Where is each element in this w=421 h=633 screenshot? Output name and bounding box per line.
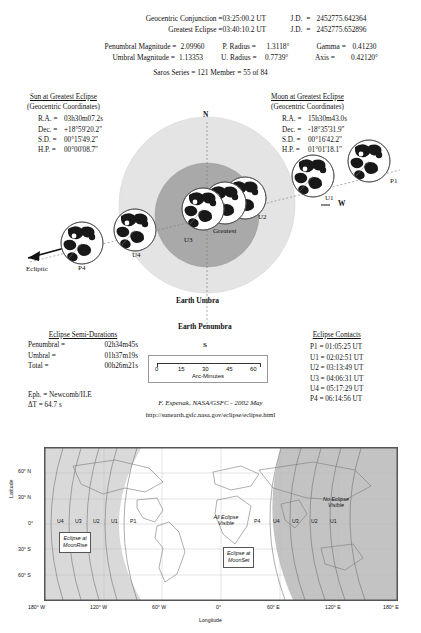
contact-label-u3: U3 [184,236,193,244]
moonset-line1: Eclipse at [227,550,250,557]
axis-label: Axis = [315,53,351,64]
lon-tick-120e: 120° E [325,604,341,610]
moonrise-box: Eclipse at MoonRise [59,532,91,553]
magnitude-row: Penumbral Magnitude = 2.09960 P. Radius … [0,42,421,53]
contour-label-right-u3: U3 [292,518,299,524]
lon-tick-120w: 120° W [90,604,107,610]
semi-total-key: Total = [28,361,82,371]
contact-key-p1: P1 = [310,343,323,351]
moonrise-line2: MoonRise [63,542,87,549]
contour-label-u3: U3 [75,518,82,524]
region-label-no-visible: No Eclipse Visible [307,496,365,508]
lat-tick-60n: 60° N [18,468,31,474]
moonrise-line1: Eclipse at [63,535,87,542]
moon-position-p1 [348,140,390,182]
contact-value-p1: 01:05:25 UT [325,343,362,351]
contour-label-u4: U4 [57,518,64,524]
lat-tick-30s: 30° S [18,546,31,552]
direction-north-label: N [203,110,208,119]
visibility-world-map: All Eclipse Visible No Eclipse Visible E… [44,447,398,601]
greatest-eclipse-label: Greatest Eclipse = [55,25,223,36]
greatest-eclipse-value: 03:40:10.2 UT [223,25,291,36]
scale-tickline [157,363,261,367]
eclipse-semi-durations-panel: Eclipse Semi-Durations Penumbral = 02h34… [28,330,138,372]
contacts-title: Eclipse Contacts [310,330,363,340]
gamma-label: Gamma = [316,42,352,53]
geocentric-conjunction-label: Geocentric Conjunction = [55,14,223,25]
moonset-box: Eclipse at MoonSet [223,547,254,568]
p-radius-value: 1.3118° [266,42,316,53]
scale-tick-0: 0 [155,366,158,372]
direction-south-label: S [203,341,207,349]
scale-tick-15: 15 [178,366,185,372]
moon-position-p4 [61,222,103,264]
moonset-line2: MoonSet [227,557,250,564]
contact-label-p1: P1 [390,177,397,185]
penumbral-magnitude-label: Penumbral Magnitude = [44,42,176,53]
moon-position-u4 [114,209,156,251]
scale-tick-30: 30 [202,366,209,372]
jd-value-1: 2452775.652896 [317,25,367,36]
contact-value-u3: 04:06:31 UT [326,375,363,383]
ecliptic-label: Ecliptic [26,265,48,273]
jd-label-1: J.D. = [291,25,317,36]
p-radius-label: P. Radius = [222,42,266,53]
semi-penumbral-value: 02h34m45s [82,340,138,350]
jd-value-0: 2452775.642364 [317,14,367,25]
eclipse-page: Geocentric Conjunction = 03:25:00.2 UT J… [0,0,421,633]
contact-key-u1: U1 = [310,354,325,362]
header-row: Greatest Eclipse = 03:40:10.2 UT J.D. = … [0,25,421,36]
moon-position-u3 [182,188,224,230]
contour-label-right-u2: U2 [311,518,318,524]
lon-tick-0: 0° [216,604,221,610]
contact-label-greatest: Greatest [213,227,236,235]
contact-row-u2: U2 = 03:13:49 UT [310,363,363,373]
contact-row-p1: P1 = 01:05:25 UT [310,342,363,352]
credit-url[interactable]: http://sunearth.gsfc.nasa.gov/eclipse/ec… [0,409,421,420]
semi-durations-title: Eclipse Semi-Durations [28,330,138,340]
lon-tick-180e: 180° E [383,604,399,610]
axis-value: 0.42120° [351,53,378,64]
credit-author: F. Espenak, NASA/GSFC - 2002 May [0,398,421,409]
lat-tick-30n: 30° N [18,494,31,500]
eclipse-contacts-panel: Eclipse Contacts P1 = 01:05:25 UT U1 = 0… [310,330,363,405]
geocentric-conjunction-value: 03:25:00.2 UT [223,14,291,25]
umbral-magnitude-value: 1.13353 [175,53,221,64]
scale-tick-60: 60 [250,366,257,372]
lon-tick-60e: 60° E [267,604,280,610]
semi-penumbral-row: Penumbral = 02h34m45s [28,340,138,350]
earth-penumbra-label: Earth Penumbra [178,322,232,331]
contact-key-u3: U3 = [310,375,325,383]
latitude-axis-label: Latitude [8,480,14,498]
jd-label-0: J.D. = [291,14,317,25]
scale-unit-label: Arc-Minutes [149,373,267,379]
semi-total-value: 00h26m21s [82,361,138,371]
scale-tick-45: 45 [226,366,233,372]
longitude-axis-label: Longitude [0,617,421,623]
contact-row-u1: U1 = 02:02:51 UT [310,353,363,363]
penumbral-magnitude-value: 2.09960 [176,42,222,53]
umbral-magnitude-label: Umbral Magnitude = [43,53,175,64]
moon-position-u1 [292,155,334,197]
contact-value-u2: 03:13:49 UT [326,364,363,372]
contour-label-right-u1: U1 [330,518,337,524]
scale-bar: 0 15 30 45 60 Arc-Minutes [148,355,268,383]
header-block: Geocentric Conjunction = 03:25:00.2 UT J… [0,14,421,79]
eclipse-shadow-diagram: N W Ecliptic Earth Umbra P1 U1 U2 Greate… [0,110,421,325]
contact-key-u4: U4 = [310,385,325,393]
semi-umbral-value: 01h37m19s [82,351,138,361]
lat-tick-0: 0° [28,520,33,526]
u-radius-label: U. Radius = [221,53,265,64]
saros-series: Saros Series = 121 Member = 55 of 84 [0,68,421,79]
semi-umbral-key: Umbral = [28,351,82,361]
contact-value-u4: 05:17:29 UT [326,385,363,393]
contour-label-p4: P4 [254,518,260,524]
contact-label-u4: U4 [132,251,141,259]
contact-label-u2: U2 [258,213,267,221]
sun-title: Sun at Greatest Eclipse [24,92,103,102]
semi-total-row: Total = 00h26m21s [28,361,138,371]
contact-row-u3: U3 = 04:06:31 UT [310,374,363,384]
earth-umbra-label: Earth Umbra [176,296,219,305]
contour-label-u1: U1 [111,518,118,524]
lon-tick-60w: 60° W [152,604,166,610]
